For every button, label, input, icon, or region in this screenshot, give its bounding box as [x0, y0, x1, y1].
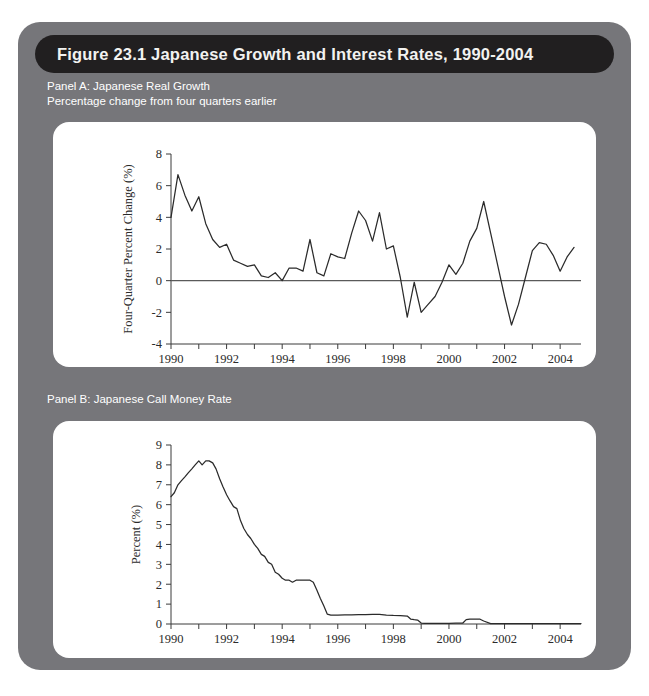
y-tick-label: 2	[156, 242, 162, 256]
x-tick-label: 1990	[159, 632, 184, 646]
y-tick-label: 0	[156, 274, 162, 288]
panel-a-chart: -4-2024681990199219941996199820002002200…	[53, 122, 596, 367]
x-tick-label: 1994	[270, 632, 296, 646]
x-tick-label: 1998	[381, 352, 406, 366]
y-tick-label: 8	[156, 458, 162, 472]
y-tick-label: 9	[156, 438, 162, 452]
panel-a-caption-line2: Percentage change from four quarters ear…	[47, 94, 276, 109]
x-tick-label: 2000	[436, 632, 461, 646]
y-tick-label: 1	[156, 597, 162, 611]
x-tick-label: 1990	[159, 352, 184, 366]
x-tick-label: 1992	[214, 352, 239, 366]
y-tick-label: 0	[156, 617, 162, 631]
y-tick-label: 3	[156, 558, 162, 572]
y-tick-label: 6	[156, 498, 162, 512]
y-tick-label: 2	[156, 578, 162, 592]
x-tick-label: 1996	[325, 632, 350, 646]
figure-title-bar: Figure 23.1 Japanese Growth and Interest…	[35, 35, 614, 73]
x-tick-label: 1996	[325, 352, 350, 366]
panel-b-caption: Panel B: Japanese Call Money Rate	[47, 392, 232, 407]
x-tick-label: 2004	[548, 352, 574, 366]
x-tick-label: 1998	[381, 632, 406, 646]
figure-title: Figure 23.1 Japanese Growth and Interest…	[35, 45, 533, 64]
figure-card: Figure 23.1 Japanese Growth and Interest…	[18, 22, 631, 670]
y-tick-label: 7	[156, 478, 162, 492]
y-tick-label: -4	[152, 337, 163, 351]
y-tick-label: -2	[152, 306, 162, 320]
x-tick-label: 1994	[270, 352, 296, 366]
y-tick-label: 4	[156, 538, 163, 552]
panel-a-plot-card: -4-2024681990199219941996199820002002200…	[53, 122, 596, 367]
x-tick-label: 2004	[548, 632, 574, 646]
panel-a-caption-line1: Panel A: Japanese Real Growth	[47, 79, 276, 94]
x-tick-label: 2002	[492, 352, 517, 366]
y-axis-title: Four-Quarter Percent Change (%)	[121, 164, 135, 333]
panel-b-chart: 0123456789199019921994199619982000200220…	[53, 421, 596, 658]
x-tick-label: 2000	[436, 352, 461, 366]
x-tick-label: 1992	[214, 632, 239, 646]
series-line	[171, 461, 581, 624]
series-line	[171, 175, 574, 325]
y-tick-label: 8	[156, 147, 162, 161]
panel-b-plot-card: 0123456789199019921994199619982000200220…	[53, 421, 596, 658]
panel-b-caption-line1: Panel B: Japanese Call Money Rate	[47, 392, 232, 407]
panel-a-caption: Panel A: Japanese Real Growth Percentage…	[47, 79, 276, 109]
y-tick-label: 4	[156, 211, 163, 225]
y-tick-label: 6	[156, 179, 162, 193]
y-tick-label: 5	[156, 518, 162, 532]
x-tick-label: 2002	[492, 632, 517, 646]
y-axis-title: Percent (%)	[129, 505, 143, 564]
